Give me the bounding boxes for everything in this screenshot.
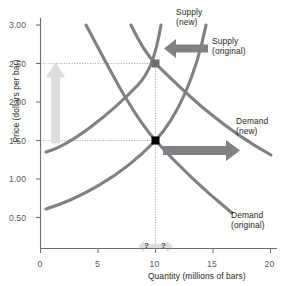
- demand-original-curve: [86, 25, 232, 213]
- y-tick-label-1: 1.00: [9, 174, 26, 184]
- supply-original-label-line2: (original): [212, 47, 246, 57]
- x-tick-label-1: 5: [95, 259, 100, 269]
- original-equilibrium-marker: [152, 137, 160, 145]
- shift-arrows: [163, 39, 240, 161]
- demand-new-label-line2: (new): [236, 127, 257, 137]
- supply-new-label-line2: (new): [176, 18, 197, 28]
- x-axis-ticks: [41, 249, 271, 254]
- y-tick-label-5: 3.00: [9, 20, 26, 30]
- y-tick-label-4: 2.50: [9, 59, 26, 69]
- demand-shift-arrow: [163, 140, 240, 161]
- supply-new-curve: [46, 25, 161, 152]
- x-tick-label-3: 15: [207, 259, 217, 269]
- x-tick-label-4: 20: [265, 259, 275, 269]
- new-equilibrium-marker: [152, 60, 160, 68]
- supply-original-curve: [46, 25, 206, 209]
- demand-original-label-line2: (original): [231, 221, 265, 231]
- y-tick-label-0: 0.50: [9, 213, 26, 223]
- supply-demand-chart: Price (dollars per bar) 0.50 1.00 1.50 2…: [0, 0, 289, 286]
- y-tick-label-3: 2.00: [9, 97, 26, 107]
- y-tick-label-2: 1.50: [9, 136, 26, 146]
- y-axis-ticks: [36, 25, 41, 218]
- quantity-question-mark-left: ?: [144, 241, 149, 250]
- price-increase-arrow: [47, 63, 65, 143]
- x-tick-label-0: 0: [38, 259, 43, 269]
- x-axis-title: Quantity (millions of bars): [148, 271, 246, 281]
- x-tick-label-2: 10: [150, 259, 160, 269]
- quantity-question-mark-right: ?: [161, 241, 166, 250]
